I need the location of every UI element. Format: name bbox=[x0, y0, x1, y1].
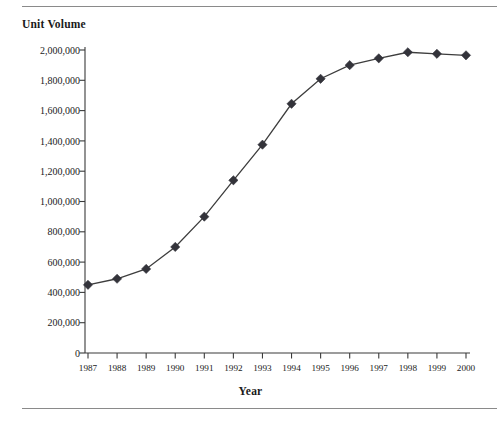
x-axis-title: Year bbox=[0, 385, 501, 397]
x-axis-tick-label: 1991 bbox=[195, 363, 214, 373]
x-axis-tick-label: 1992 bbox=[224, 363, 243, 373]
y-axis-tick-label: 800,000 bbox=[48, 226, 81, 237]
data-point-marker bbox=[432, 49, 441, 58]
data-point-marker bbox=[403, 48, 412, 57]
series-line-unit-volume bbox=[88, 52, 466, 285]
x-axis-tick-label: 1996 bbox=[341, 363, 360, 373]
y-axis-tick-label: 200,000 bbox=[48, 317, 81, 328]
y-axis-tick-label: 0 bbox=[75, 348, 80, 359]
x-axis-tick-label: 1995 bbox=[311, 363, 330, 373]
series-markers-unit-volume bbox=[83, 48, 470, 290]
line-chart-plot: 2,000,0001,800,0001,600,0001,400,0001,20… bbox=[0, 0, 501, 421]
data-point-marker bbox=[112, 274, 121, 283]
y-axis-tick-label: 1,800,000 bbox=[40, 75, 80, 86]
y-axis-tick-label: 1,000,000 bbox=[40, 196, 80, 207]
y-axis-tick-label: 1,600,000 bbox=[40, 105, 80, 116]
x-axis-tick-label: 1993 bbox=[253, 363, 272, 373]
y-axis-tick-marks bbox=[80, 50, 86, 353]
x-axis-tick-label: 1989 bbox=[137, 363, 156, 373]
x-axis-tick-label: 1987 bbox=[79, 363, 98, 373]
x-axis-tick-label: 1988 bbox=[108, 363, 127, 373]
x-axis-tick-labels: 1987198819891990199119921993199419951996… bbox=[79, 363, 476, 373]
data-point-marker bbox=[345, 61, 354, 70]
y-axis-tick-label: 2,000,000 bbox=[40, 45, 80, 56]
x-axis-tick-marks bbox=[88, 353, 466, 359]
y-axis-tick-label: 1,200,000 bbox=[40, 166, 80, 177]
y-axis-tick-label: 1,400,000 bbox=[40, 136, 80, 147]
data-point-marker bbox=[374, 54, 383, 63]
x-axis-tick-label: 1997 bbox=[370, 363, 389, 373]
x-axis-tick-label: 1999 bbox=[428, 363, 447, 373]
y-axis-tick-label: 400,000 bbox=[48, 287, 81, 298]
x-axis-tick-label: 1990 bbox=[166, 363, 185, 373]
x-axis-tick-label: 2000 bbox=[457, 363, 476, 373]
y-axis-tick-label: 600,000 bbox=[48, 257, 81, 268]
y-axis-tick-labels: 2,000,0001,800,0001,600,0001,400,0001,20… bbox=[40, 45, 80, 359]
data-point-marker bbox=[461, 51, 470, 60]
figure-container: Unit Volume 2,000,0001,800,0001,600,0001… bbox=[0, 0, 501, 421]
x-axis-tick-label: 1998 bbox=[399, 363, 418, 373]
x-axis-tick-label: 1994 bbox=[282, 363, 301, 373]
